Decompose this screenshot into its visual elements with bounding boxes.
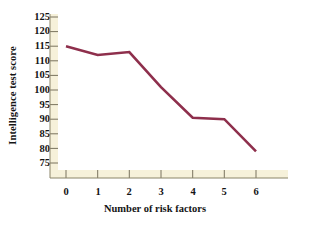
x-axis-tick-labels: 0 1 2 3 4 5 6 — [0, 186, 310, 202]
x-tick-label: 2 — [121, 186, 137, 198]
x-tick-label: 4 — [185, 186, 201, 198]
x-tick-label: 3 — [153, 186, 169, 198]
x-tick-label: 1 — [90, 186, 106, 198]
y-axis-band — [50, 14, 58, 178]
x-axis-title: Number of risk factors — [0, 203, 310, 214]
x-axis-band — [50, 170, 288, 178]
x-tick-label: 5 — [216, 186, 232, 198]
x-tick-label: 0 — [58, 186, 74, 198]
x-tick-label: 6 — [248, 186, 264, 198]
data-line — [66, 46, 256, 151]
chart-container: Intelligence test score 125 120 115 110 … — [0, 0, 310, 226]
